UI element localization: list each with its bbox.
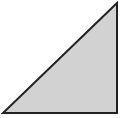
triangle-figure <box>0 0 121 118</box>
right-triangle-shape <box>3 3 117 113</box>
diagram-canvas <box>0 0 121 118</box>
